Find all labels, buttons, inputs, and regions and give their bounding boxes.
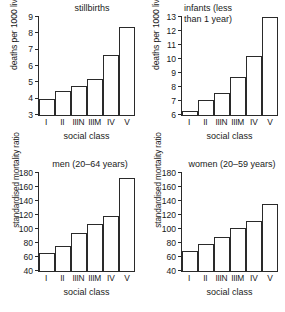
bar-cell	[198, 17, 214, 115]
y-axis-title-stillbirths: deaths per 1000 live births	[8, 0, 20, 70]
x-tick-labels-men: IIIIIINIIIMIVV	[38, 273, 135, 284]
x-tick-label: IV	[103, 273, 119, 284]
y-tick-label: 7	[28, 43, 33, 55]
plot-area-men: 406080100120140160180	[38, 173, 135, 272]
bar	[182, 251, 198, 271]
bar	[119, 27, 135, 115]
y-tick-label: 9	[28, 11, 33, 23]
y-tick-label: 100	[162, 223, 176, 235]
bar	[262, 17, 278, 115]
bar-cell	[55, 17, 71, 115]
x-tick-label: IIIM	[230, 117, 246, 128]
bar-cell	[182, 17, 198, 115]
y-tick-label: 80	[23, 237, 33, 249]
x-tick-label: I	[38, 117, 54, 128]
x-tick-label: II	[54, 117, 70, 128]
y-tick-label: 3	[28, 109, 33, 121]
x-tick-label: V	[262, 273, 278, 284]
bar-cell	[198, 173, 214, 271]
bar-cell	[71, 173, 87, 271]
bar	[87, 79, 103, 115]
y-tick-label: 120	[19, 209, 33, 221]
bar	[230, 77, 246, 116]
y-tick-label: 80	[166, 237, 176, 249]
y-tick-label: 180	[162, 167, 176, 179]
chart-title-women: women (20–59 years)	[182, 159, 282, 170]
bar	[198, 244, 214, 271]
bar-cell	[262, 17, 278, 115]
x-tick-label: II	[197, 273, 213, 284]
y-tick-label: 6	[171, 109, 176, 121]
bar	[39, 253, 55, 271]
bar-cell	[246, 173, 262, 271]
y-tick-label: 160	[19, 181, 33, 193]
bar	[214, 237, 230, 271]
x-tick-label: IV	[103, 117, 119, 128]
x-tick-labels-stillbirths: IIIIIINIIIMIVV	[38, 117, 135, 128]
y-tick-label: 180	[19, 167, 33, 179]
x-axis-title-infants: social class	[181, 130, 278, 142]
x-tick-label: V	[119, 273, 135, 284]
bar-cell	[246, 17, 262, 115]
y-tick-label: 100	[19, 223, 33, 235]
bar-series-men	[39, 173, 135, 271]
x-tick-label: IIIN	[213, 273, 229, 284]
bar	[71, 233, 87, 272]
y-tick-label: 40	[23, 265, 33, 277]
x-tick-label: IV	[246, 117, 262, 128]
x-tick-labels-women: IIIIIINIIIMIVV	[181, 273, 278, 284]
bar-cell	[230, 173, 246, 271]
y-tick-label: 9	[171, 67, 176, 79]
bar-cell	[262, 173, 278, 271]
y-tick-label: 10	[166, 53, 176, 65]
x-tick-label: IIIM	[87, 273, 103, 284]
x-tick-label: IIIN	[70, 273, 86, 284]
x-tick-label: I	[181, 273, 197, 284]
plot-area-infants: 678910111213	[181, 17, 278, 116]
bar	[182, 111, 198, 115]
x-tick-label: V	[262, 117, 278, 128]
chart-title-stillbirths: stillbirths	[46, 3, 138, 14]
bar-cell	[119, 17, 135, 115]
bar	[103, 55, 119, 115]
x-tick-label: IIIN	[70, 117, 86, 128]
bar-cell	[103, 173, 119, 271]
bar-cell	[230, 17, 246, 115]
bar-cell	[39, 17, 55, 115]
bar-cell	[87, 17, 103, 115]
bar	[262, 204, 278, 271]
figure-grid: stillbirths deaths per 1000 live births …	[0, 0, 285, 312]
y-tick-label: 13	[166, 11, 176, 23]
bar	[246, 221, 262, 271]
bar	[214, 93, 230, 115]
bar-cell	[214, 17, 230, 115]
x-tick-label: I	[38, 273, 54, 284]
y-tick-label: 12	[166, 25, 176, 37]
x-axis-title-men: social class	[38, 286, 135, 298]
y-axis-title-infants: deaths per 1000 live births	[150, 0, 162, 70]
x-tick-label: I	[181, 117, 197, 128]
x-axis-title-women: social class	[181, 286, 278, 298]
chart-panel-women: women (20–59 years) standardised mortali…	[142, 156, 285, 312]
bar	[103, 216, 119, 271]
x-tick-label: IIIN	[213, 117, 229, 128]
bar	[39, 99, 55, 115]
plot-area-stillbirths: 3456789	[38, 17, 135, 116]
bar-series-stillbirths	[39, 17, 135, 115]
bar	[230, 228, 246, 271]
x-tick-label: V	[119, 117, 135, 128]
bar-cell	[55, 173, 71, 271]
bar-cell	[119, 173, 135, 271]
y-tick-label: 140	[19, 195, 33, 207]
y-tick-label: 4	[28, 92, 33, 104]
bar	[55, 91, 71, 116]
x-tick-label: IIIM	[87, 117, 103, 128]
bar-cell	[87, 173, 103, 271]
x-tick-label: IV	[246, 273, 262, 284]
y-tick-label: 8	[171, 81, 176, 93]
bar-series-infants	[182, 17, 278, 115]
y-tick-label: 40	[166, 265, 176, 277]
y-tick-label: 120	[162, 209, 176, 221]
y-tick-label: 60	[23, 251, 33, 263]
y-tick-label: 5	[28, 76, 33, 88]
